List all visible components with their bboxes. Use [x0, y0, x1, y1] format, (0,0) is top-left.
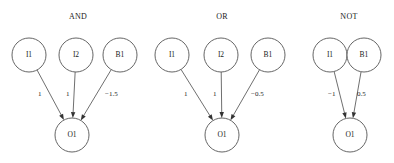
edge-line-and-1 [73, 72, 75, 113]
node-and-input-1-label: I2 [73, 50, 79, 59]
edge-arrowhead-or-2 [230, 114, 235, 120]
gate-title-or: OR [216, 12, 228, 21]
edge-weight-or-1: 1 [213, 90, 217, 98]
edge-weight-and-2: −1.5 [105, 90, 118, 98]
node-and-output-label: O1 [67, 130, 76, 139]
node-and-input-2-label: B1 [116, 50, 125, 59]
edge-line-or-1 [221, 72, 222, 113]
node-or-input-2-label: B1 [264, 50, 273, 59]
edge-weight-and-0: 1 [38, 90, 42, 98]
node-not-output-label: O1 [345, 130, 354, 139]
node-not-input-1-label: B1 [360, 50, 369, 59]
gate-group-not: NOTI1B1O1−10.5 [313, 12, 381, 152]
node-or-input-1-label: I2 [218, 50, 224, 59]
edge-line-not-0 [334, 71, 344, 113]
edge-arrowhead-and-2 [81, 114, 86, 120]
edge-weight-not-1: 0.5 [357, 90, 366, 98]
gate-title-not: NOT [340, 12, 357, 21]
edge-weight-not-0: −1 [328, 90, 336, 98]
edge-arrowhead-or-1 [220, 112, 224, 118]
node-or-input-0-label: I1 [169, 50, 175, 59]
gate-group-and: ANDI1I2B1O111−1.5 [12, 12, 137, 152]
gate-title-and: AND [69, 12, 87, 21]
edge-weight-or-0: 1 [184, 90, 188, 98]
perceptron-logic-gates-figure: ANDI1I2B1O111−1.5ORI1I2B1O111−0.5NOTI1B1… [0, 0, 394, 163]
diagram-canvas: ANDI1I2B1O111−1.5ORI1I2B1O111−0.5NOTI1B1… [0, 0, 394, 163]
edge-arrowhead-and-0 [59, 114, 64, 120]
gate-group-or: ORI1I2B1O111−0.5 [155, 12, 285, 152]
node-and-input-0-label: I1 [26, 50, 32, 59]
edge-arrowhead-not-0 [342, 112, 346, 118]
edge-weight-or-2: −0.5 [251, 90, 264, 98]
edge-arrowhead-not-1 [352, 112, 356, 118]
diagram-render-root: ANDI1I2B1O111−1.5ORI1I2B1O111−0.5NOTI1B1… [12, 12, 381, 152]
node-not-input-0-label: I1 [327, 50, 333, 59]
node-or-output-label: O1 [217, 130, 226, 139]
edge-arrowhead-and-1 [71, 112, 75, 118]
edge-arrowhead-or-0 [208, 114, 213, 120]
edge-weight-and-1: 1 [66, 90, 70, 98]
